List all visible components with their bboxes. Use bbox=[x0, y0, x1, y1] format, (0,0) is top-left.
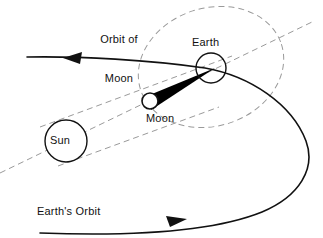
label-earths-orbit: Earth's Orbit bbox=[37, 205, 100, 218]
eclipse-diagram: Orbit of Moon Earth Moon Sun Earth's Orb… bbox=[0, 0, 323, 238]
label-moon: Moon bbox=[146, 112, 174, 125]
label-sun: Sun bbox=[50, 134, 70, 147]
label-orbit-of-moon-line1: Orbit of bbox=[89, 33, 149, 46]
orbit-arrow-right-icon bbox=[166, 216, 187, 227]
label-earth: Earth bbox=[192, 36, 219, 49]
label-orbit-of-moon: Orbit of Moon bbox=[89, 7, 149, 111]
label-orbit-of-moon-line2: Moon bbox=[89, 72, 149, 85]
orbit-arrow-left-icon bbox=[63, 52, 82, 64]
